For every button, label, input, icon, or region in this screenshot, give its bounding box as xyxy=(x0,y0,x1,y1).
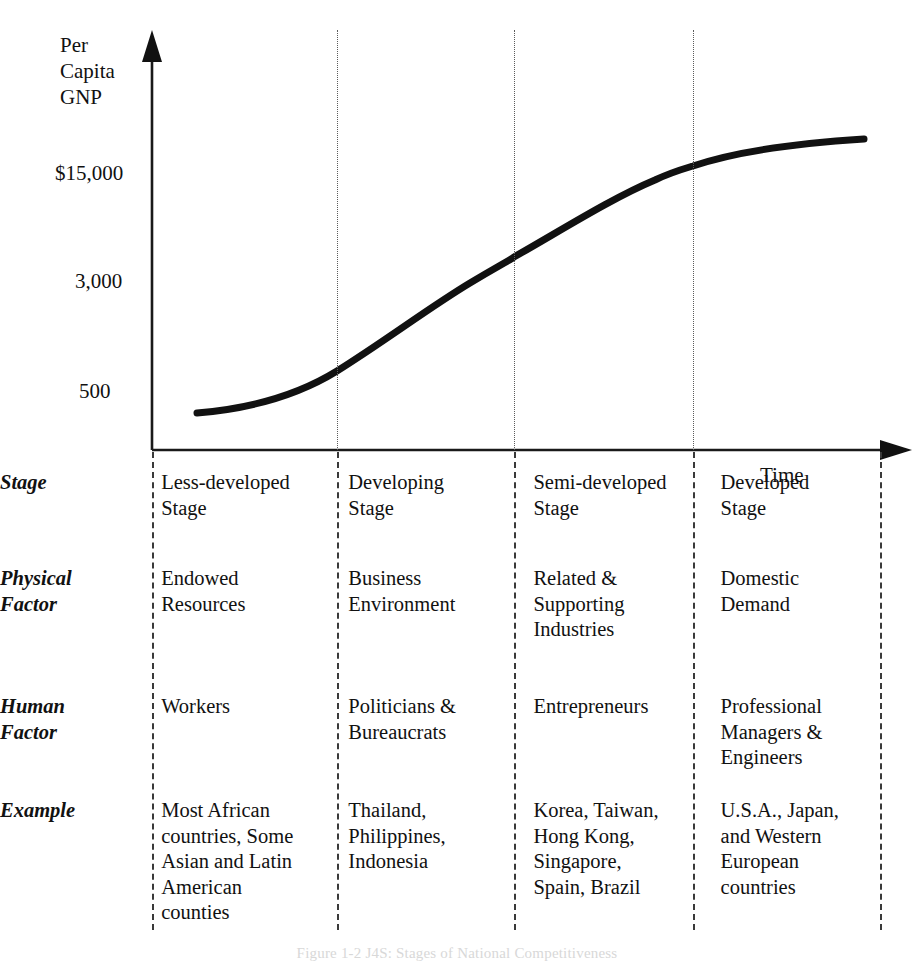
cell-stage-developed: Developed Stage xyxy=(721,470,914,566)
stage-divider-2-top xyxy=(514,30,515,450)
y-axis-title: Per Capita GNP xyxy=(60,32,115,110)
cell-text: Domestic Demand xyxy=(721,567,800,615)
stage-table: Stage Less-developed Stage Developing St… xyxy=(0,470,914,948)
cell-human-3: Entrepreneurs xyxy=(533,694,720,798)
cell-stage-semi-developed: Semi-developed Stage xyxy=(533,470,720,566)
cell-physical-2: Business Environment xyxy=(348,566,533,694)
row-label-example-text: Example xyxy=(0,799,75,821)
table-row-physical-factor: Physical Factor Endowed Resources Busine… xyxy=(0,566,914,694)
cell-example-3: Korea, Taiwan, Hong Kong, Singapore, Spa… xyxy=(533,798,720,948)
cell-human-1: Workers xyxy=(161,694,348,798)
row-label-stage: Stage xyxy=(0,470,161,566)
cell-example-4: U.S.A., Japan, and Western European coun… xyxy=(721,798,914,948)
cell-stage-less-developed: Less-developed Stage xyxy=(161,470,348,566)
row-label-physical-factor: Physical Factor xyxy=(0,566,161,694)
cell-text: Less-developed Stage xyxy=(161,471,290,519)
y-tick-label-500: 500 xyxy=(79,378,111,404)
chart-area: Per Capita GNP $15,000 3,000 500 Time xyxy=(0,0,914,470)
cell-stage-developing: Developing Stage xyxy=(348,470,533,566)
cell-text: Thailand, Philippines, Indonesia xyxy=(348,799,445,872)
cell-human-2: Politicians & Bureaucrats xyxy=(348,694,533,798)
stage-divider-1-top xyxy=(337,30,338,450)
stage-table-area: Stage Less-developed Stage Developing St… xyxy=(0,470,914,950)
cell-text: Korea, Taiwan, Hong Kong, Singapore, Spa… xyxy=(533,799,658,898)
table-row-human-factor: Human Factor Workers Politicians & Burea… xyxy=(0,694,914,798)
cell-text: Developing Stage xyxy=(348,471,444,519)
cell-text: Politicians & Bureaucrats xyxy=(348,695,456,743)
cell-text: Workers xyxy=(161,695,230,717)
gnp-curve xyxy=(197,139,864,413)
cell-text: Professional Managers & Engineers xyxy=(721,695,823,768)
row-label-example: Example xyxy=(0,798,161,948)
cell-text: Related & Supporting Industries xyxy=(533,567,624,640)
y-tick-label-15000: $15,000 xyxy=(55,160,123,186)
cell-text: Semi-developed Stage xyxy=(533,471,666,519)
cell-text: Business Environment xyxy=(348,567,455,615)
cell-physical-3: Related & Supporting Industries xyxy=(533,566,720,694)
cell-text: Most African countries, Some Asian and L… xyxy=(161,799,293,923)
row-label-human-factor-text: Human Factor xyxy=(0,695,65,743)
stage-divider-3-top xyxy=(693,30,694,450)
cell-text: Entrepreneurs xyxy=(533,695,648,717)
s-curve-chart xyxy=(0,0,914,470)
y-tick-label-3000: 3,000 xyxy=(75,268,122,294)
y-axis-arrowhead xyxy=(142,30,162,62)
cell-text: Developed Stage xyxy=(721,471,810,519)
cell-text: Endowed Resources xyxy=(161,567,245,615)
table-row-example: Example Most African countries, Some Asi… xyxy=(0,798,914,948)
cell-text: U.S.A., Japan, and Western European coun… xyxy=(721,799,839,898)
row-label-human-factor: Human Factor xyxy=(0,694,161,798)
x-axis-arrowhead xyxy=(880,440,912,460)
cell-human-4: Professional Managers & Engineers xyxy=(721,694,914,798)
cell-example-2: Thailand, Philippines, Indonesia xyxy=(348,798,533,948)
cell-example-1: Most African countries, Some Asian and L… xyxy=(161,798,348,948)
row-label-stage-text: Stage xyxy=(0,471,47,493)
row-label-physical-factor-text: Physical Factor xyxy=(0,567,72,615)
figure-container: Per Capita GNP $15,000 3,000 500 Time St… xyxy=(0,0,914,967)
table-row-stage: Stage Less-developed Stage Developing St… xyxy=(0,470,914,566)
figure-caption: Figure 1-2 J4S: Stages of National Compe… xyxy=(0,944,914,963)
cell-physical-4: Domestic Demand xyxy=(721,566,914,694)
cell-physical-1: Endowed Resources xyxy=(161,566,348,694)
